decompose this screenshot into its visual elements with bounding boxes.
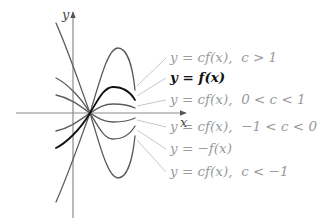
label-c-between-0-1: y = cf(x), 0 < c < 1 — [169, 91, 306, 107]
curve-c-between-0-1 — [56, 104, 135, 131]
label-c-greater-1: y = cf(x), c > 1 — [169, 49, 277, 65]
leader-line-c-between-neg1-0 — [137, 120, 166, 127]
curve-c-greater-1 — [56, 48, 135, 202]
leader-line-c-less-neg1 — [137, 140, 166, 172]
label-f: y = f(x) — [169, 69, 225, 85]
leader-line-f — [137, 78, 166, 96]
leader-line-c-between-0-1 — [137, 100, 166, 106]
curve-c-less-neg1 — [56, 23, 135, 178]
label-neg-f: y = −f(x) — [169, 140, 232, 156]
label-c-between-neg1-0: y = cf(x), −1 < c < 0 — [169, 118, 317, 134]
y-axis-label: y — [61, 7, 70, 22]
leader-line-c-greater-1 — [137, 58, 166, 86]
scaling-diagram: x y y = cf(x), c > 1 y = f(x) y = cf(x),… — [0, 0, 326, 219]
leader-line-group — [137, 58, 166, 172]
leader-line-neg-f — [137, 130, 166, 149]
label-c-less-neg1: y = cf(x), c < −1 — [169, 163, 289, 179]
curve-c-between-neg1-0 — [56, 95, 135, 122]
